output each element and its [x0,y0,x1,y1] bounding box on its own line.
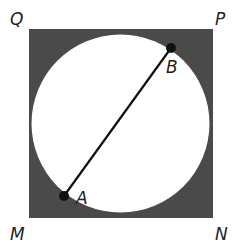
point-b [166,43,176,53]
label-a: A [75,188,88,208]
label-q: Q [10,9,23,29]
label-b: B [166,57,178,77]
label-p: P [215,9,226,29]
geometry-diagram: Q P M N A B [0,0,236,245]
label-n: N [215,224,228,244]
label-m: M [10,224,25,244]
point-a [59,191,69,201]
inscribed-circle [32,35,210,213]
